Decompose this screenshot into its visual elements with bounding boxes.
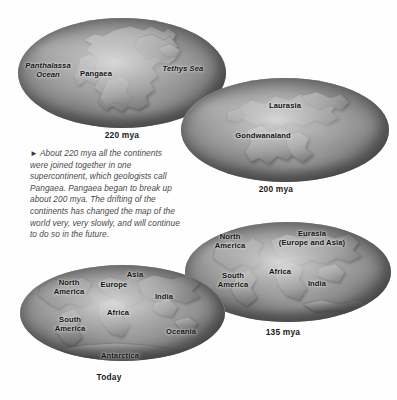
- era-caption-135mya: 135 mya: [266, 327, 300, 337]
- era-caption-200mya: 200 mya: [259, 184, 293, 194]
- era-caption-today: Today: [96, 372, 121, 382]
- continental-drift-figure: Panthalassa Ocean Pangaea Tethys Sea 220…: [0, 0, 397, 400]
- triangle-marker-icon: ►: [30, 149, 38, 158]
- globe-200mya: [181, 78, 389, 182]
- landmass-today: [20, 265, 225, 361]
- landmass-laurasia-gondwanaland: [181, 78, 389, 182]
- figure-caption: ►About 220 mya all the continents were j…: [30, 148, 182, 241]
- globe-today: [20, 265, 225, 361]
- figure-caption-text: About 220 mya all the continents were jo…: [30, 148, 180, 239]
- era-caption-220mya: 220 mya: [105, 130, 139, 140]
